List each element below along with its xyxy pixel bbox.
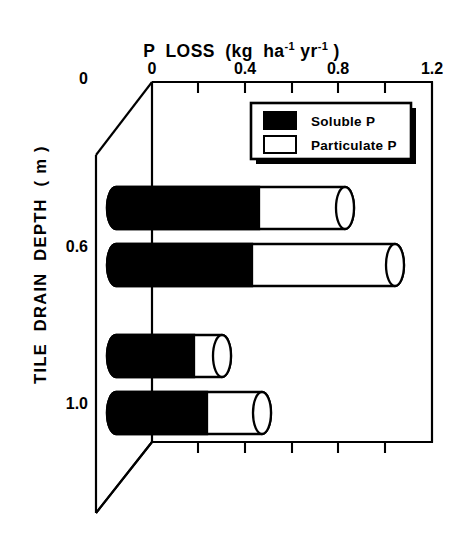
chart-figure: P LOSS (kg ha-1 yr-1 ) TILE DRAIN DEPTH …: [0, 0, 462, 535]
legend-swatch-soluble: [264, 112, 296, 129]
bar-row-4: [107, 392, 271, 434]
bar-3-end-cap: [213, 335, 231, 377]
bar-row-3: [107, 335, 231, 377]
bar-1-end-cap: [336, 187, 354, 229]
bar-4-soluble: [107, 392, 207, 434]
legend-label-particulate: Particulate P: [311, 138, 397, 153]
plot-area: 0 0.4 0.8 1.2 0 0.6 1.0: [0, 0, 462, 535]
legend-label-soluble: Soluble P: [311, 114, 375, 129]
legend: Soluble P Particulate P: [251, 103, 416, 164]
bar-2-end-cap: [386, 244, 404, 286]
y-tick-label-06: 0.6: [66, 238, 88, 255]
y-tick-label-10: 1.0: [66, 395, 88, 412]
x-tick-label-04: 0.4: [234, 60, 256, 77]
bar-row-1: [107, 187, 354, 229]
bar-row-2: [107, 244, 404, 286]
bar-3-soluble: [107, 335, 194, 377]
x-tick-label-0: 0: [148, 60, 157, 77]
x-axis-ticks-bottom: [198, 442, 385, 453]
bar-2-soluble: [107, 244, 252, 286]
x-tick-label-08: 0.8: [327, 60, 349, 77]
bar-4-end-cap: [253, 392, 271, 434]
x-tick-label-12: 1.2: [421, 60, 443, 77]
bar-1-soluble: [107, 187, 259, 229]
legend-swatch-particulate: [264, 136, 296, 153]
y-tick-label-0: 0: [79, 70, 88, 87]
